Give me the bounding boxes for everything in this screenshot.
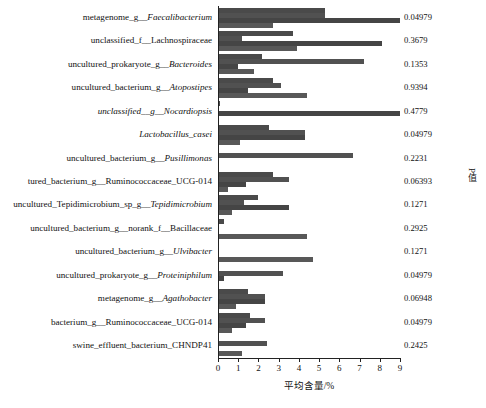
horizontal-bar-chart: metagenome_g__Faecalibacteriumunclassifi… <box>0 0 486 408</box>
category-label: unclassified__g__Nocardiopsis <box>98 106 212 116</box>
bar-group <box>218 78 400 98</box>
x-tick <box>238 358 239 362</box>
bar-group4 <box>218 328 232 333</box>
x-tick-label: 5 <box>309 363 329 373</box>
category-label: metagenome_g__Agathobacter <box>98 293 212 303</box>
x-tick-label: 2 <box>248 363 268 373</box>
bar-group2 <box>218 271 283 276</box>
x-tick-label: 8 <box>370 363 390 373</box>
p-value: 0.1271 <box>404 246 462 256</box>
p-value: 0.4779 <box>404 106 462 116</box>
category-label: uncultured_prokaryote_g__Proteiniphilum <box>56 270 212 280</box>
category-label: uncultured_Tepidimicrobium_sp_g__Tepidim… <box>13 199 212 209</box>
bar-group <box>218 336 400 356</box>
category-label: uncultured_bacterium_g__Ulvibacter <box>75 246 212 256</box>
p-value: 0.1271 <box>404 199 462 209</box>
p-value: 0.3679 <box>404 35 462 45</box>
x-tick-label: 0 <box>208 363 228 373</box>
p-value: 0.2425 <box>404 340 462 350</box>
p-value: 0.9394 <box>404 82 462 92</box>
category-label: swine_effluent_bacterium_CHNDP41 <box>73 340 212 350</box>
bar-group2 <box>218 341 267 346</box>
x-tick-label: 1 <box>228 363 248 373</box>
x-tick <box>360 358 361 362</box>
p-value: 0.06393 <box>404 176 462 186</box>
p-value: 0.04979 <box>404 129 462 139</box>
x-tick <box>380 358 381 362</box>
bar-group4 <box>218 140 240 145</box>
bar-group <box>218 54 400 74</box>
bar-group <box>218 125 400 145</box>
bar-group <box>218 172 400 192</box>
bar-group4 <box>218 187 228 192</box>
bar-group <box>218 266 400 286</box>
plot-area <box>218 6 400 358</box>
bar-group4 <box>218 46 297 51</box>
x-tick-label: 9 <box>390 363 410 373</box>
bar-group2 <box>218 59 364 64</box>
bar-group2 <box>218 153 353 158</box>
x-tick <box>218 358 219 362</box>
category-label: Lactobacillus_casei <box>139 129 212 139</box>
x-axis-line <box>218 358 400 359</box>
x-tick <box>400 358 401 362</box>
bar-group4 <box>218 69 254 74</box>
bar-group4 <box>218 351 242 356</box>
bar-group3 <box>218 111 400 116</box>
p-value: 0.04979 <box>404 270 462 280</box>
bar-group <box>218 289 400 309</box>
p-value: 0.2231 <box>404 153 462 163</box>
category-label: uncultured_prokaryote_g__Bacteroides <box>68 59 212 69</box>
x-tick <box>279 358 280 362</box>
bar-group4 <box>218 93 307 98</box>
x-tick <box>319 358 320 362</box>
p-value: 0.1353 <box>404 59 462 69</box>
bar-group <box>218 219 400 239</box>
x-tick <box>258 358 259 362</box>
category-label: metagenome_g__Faecalibacterium <box>83 12 212 22</box>
category-label: bacterium_g__Ruminococcaceae_UCG-014 <box>51 317 212 327</box>
p-value-axis-title: P值 <box>466 168 479 182</box>
x-tick <box>339 358 340 362</box>
category-labels-column: metagenome_g__Faecalibacteriumunclassifi… <box>0 0 216 352</box>
bar-group4 <box>218 304 236 309</box>
bar-group4 <box>218 23 273 28</box>
x-tick <box>299 358 300 362</box>
x-axis-title: 平均含量/% <box>218 378 400 392</box>
y-axis-line <box>218 6 219 358</box>
category-label: uncultured_bacterium_g__Pusillimonas <box>67 153 212 163</box>
bar-group <box>218 31 400 51</box>
category-label: uncultured_bacterium_g__Atopostipes <box>72 82 212 92</box>
bar-group4 <box>218 210 232 215</box>
bar-group <box>218 242 400 262</box>
category-label: uncultured_bacterium_g__norank_f__Bacill… <box>30 223 212 233</box>
bar-group <box>218 8 400 28</box>
bar-group <box>218 313 400 333</box>
x-tick-label: 3 <box>269 363 289 373</box>
p-value: 0.06948 <box>404 293 462 303</box>
bar-group <box>218 148 400 168</box>
category-label: tured_bacterium_g__Ruminococcaceae_UCG-0… <box>28 176 212 186</box>
x-tick-label: 7 <box>350 363 370 373</box>
p-value: 0.2925 <box>404 223 462 233</box>
bar-group4 <box>218 234 307 239</box>
x-tick-label: 4 <box>289 363 309 373</box>
p-value: 0.04979 <box>404 12 462 22</box>
category-label: unclassified_f__Lachnospiraceae <box>91 35 212 45</box>
p-value-column: 0.049790.36790.13530.93940.47790.049790.… <box>404 0 462 352</box>
bar-group <box>218 101 400 121</box>
bar-group4 <box>218 257 313 262</box>
p-value: 0.04979 <box>404 317 462 327</box>
x-tick-label: 6 <box>329 363 349 373</box>
bar-group <box>218 195 400 215</box>
